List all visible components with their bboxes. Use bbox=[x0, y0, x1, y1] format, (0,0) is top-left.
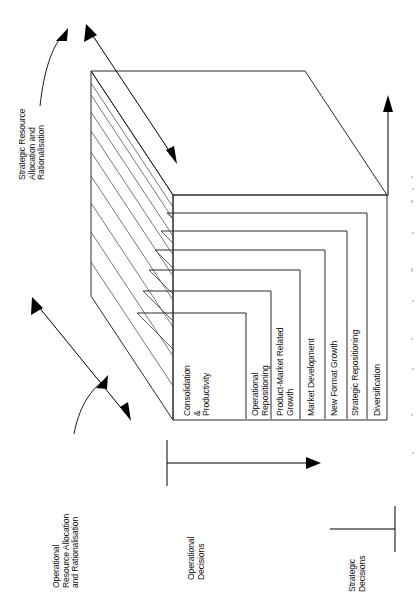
box-top-face bbox=[91, 71, 387, 195]
annotation-strategic-resource: Strategic Resource Allocation and Ration… bbox=[18, 109, 47, 180]
scan-speckles bbox=[411, 176, 414, 454]
layer-label-new-format-growth: New Format Growth bbox=[330, 341, 340, 416]
operational-decisions-axis bbox=[167, 440, 321, 486]
layer-label-diversification: Diversification bbox=[373, 364, 383, 416]
axis-label-operational-decisions: Operational Decisions bbox=[187, 537, 206, 580]
strategic-resource-pointer bbox=[40, 28, 68, 106]
layer-label-product-market-related-growth: Product-Market Related Growth bbox=[276, 327, 295, 416]
diagram-canvas: Strategic Resource Allocation and Ration… bbox=[0, 0, 419, 598]
strategic-decisions-axis bbox=[330, 506, 395, 552]
diagram-figure bbox=[0, 0, 419, 598]
axis-label-strategic-decisions: Strategic Decisions bbox=[348, 556, 367, 592]
operational-resource-pointer bbox=[74, 375, 108, 434]
depth-axis-arrow bbox=[383, 95, 393, 196]
layer-label-strategic-repositioning: Strategic Repositioning bbox=[351, 330, 361, 416]
box-left-hatched-face bbox=[91, 71, 173, 420]
operational-resource-arrow bbox=[31, 297, 131, 421]
layer-label-operational-repositioning: Operational Repositioning bbox=[251, 365, 270, 416]
annotation-operational-resource: Operational Resource Allocation and Rati… bbox=[52, 514, 81, 588]
layer-label-market-development: Market Development bbox=[307, 339, 317, 417]
layer-label-consolidation-productivity: Consolidation & Productivity bbox=[183, 365, 212, 416]
